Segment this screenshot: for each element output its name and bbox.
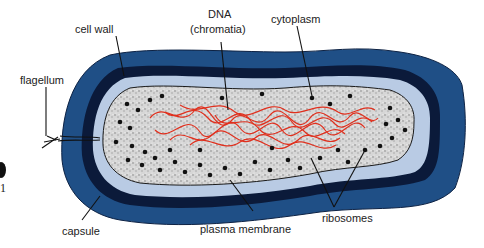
label-cell-wall: cell wall [75,23,114,35]
label-plasma-membrane: plasma membrane [200,223,291,235]
label-capsule: capsule [62,225,100,237]
label-cytoplasm: cytoplasm [271,13,321,25]
label-ribosomes: ribosomes [322,212,373,224]
label-flagellum: flagellum [20,74,64,86]
label-dna-chromatia: (chromatia) [190,23,246,35]
label-dna: DNA [208,8,232,20]
edge-glyph-artifact: 1 [0,181,6,195]
edge-dot-artifact [0,162,6,178]
bacterial-cell-diagram: cell wall DNA (chromatia) cytoplasm flag… [0,0,484,248]
